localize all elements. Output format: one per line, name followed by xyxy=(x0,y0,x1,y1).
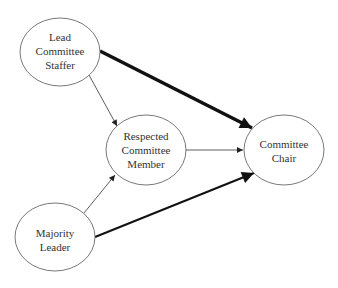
influence-diagram: Lead Committee Staffer Respected Committ… xyxy=(0,0,338,288)
node-label: Majority xyxy=(36,227,75,239)
node-respected-committee-member: Respected Committee Member xyxy=(106,115,186,185)
node-label: Respected xyxy=(123,130,169,142)
node-label: Committee xyxy=(36,45,85,57)
edge-leader-to-chair xyxy=(95,173,254,237)
node-label: Staffer xyxy=(45,59,75,71)
node-label: Lead xyxy=(49,31,71,43)
node-committee-chair: Committee Chair xyxy=(244,115,324,185)
edge-staffer-to-chair xyxy=(100,51,252,128)
edge-leader-to-member xyxy=(84,175,115,213)
edge-staffer-to-member xyxy=(89,75,117,126)
node-label: Chair xyxy=(272,152,297,164)
node-label: Committee xyxy=(122,144,171,156)
node-lead-committee-staffer: Lead Committee Staffer xyxy=(20,18,100,86)
node-majority-leader: Majority Leader xyxy=(15,203,95,271)
node-label: Committee xyxy=(260,138,309,150)
node-label: Member xyxy=(127,158,165,170)
node-label: Leader xyxy=(40,241,71,253)
